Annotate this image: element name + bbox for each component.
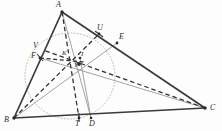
label-I: I [81, 51, 83, 58]
cevian-B-U [14, 34, 99, 118]
geometry-figure [0, 0, 222, 131]
label-V: V [33, 42, 38, 50]
label-Y: Y [74, 62, 78, 69]
side-AC [62, 12, 205, 108]
point-C [203, 106, 206, 109]
label-A: A [56, 1, 61, 9]
incircle [25, 33, 115, 119]
cevian-C-F [40, 58, 205, 108]
label-C: C [210, 104, 215, 112]
point-E [116, 42, 119, 45]
point-F [39, 57, 42, 60]
label-E: E [119, 33, 124, 41]
label-U: U [97, 24, 103, 32]
point-A [60, 10, 63, 13]
label-D: D [89, 120, 95, 128]
side-BC [14, 108, 205, 118]
label-F: F [31, 52, 36, 60]
label-B: B [4, 116, 9, 124]
label-K: K [62, 50, 67, 57]
point-U [98, 33, 101, 36]
label-T: T [75, 120, 79, 128]
point-B [12, 116, 15, 119]
diagram-canvas: A B C U E V F K I Y T D [0, 0, 222, 131]
side-AB [14, 12, 62, 118]
